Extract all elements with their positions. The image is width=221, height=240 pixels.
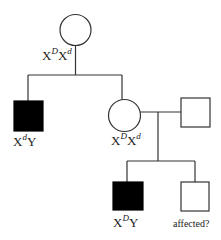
grandson1-genotype-label: XDY	[113, 213, 139, 230]
daughter-female-symbol	[109, 100, 141, 132]
son-affected-male-symbol	[14, 101, 43, 131]
grandson2-male-symbol	[181, 182, 209, 211]
son-genotype-label: XdY	[13, 132, 37, 149]
grandmother-female-symbol	[60, 15, 91, 46]
grandson2-affected-question-label: affected?	[173, 218, 210, 229]
spouse-male-symbol	[181, 98, 210, 127]
grandson1-affected-male-symbol	[113, 182, 143, 210]
pedigree-diagram: XDXd XdY XDXd XDY affected?	[0, 0, 221, 240]
daughter-genotype-label: XDXd	[111, 131, 141, 148]
grandmother-genotype-label: XDXd	[42, 46, 72, 63]
